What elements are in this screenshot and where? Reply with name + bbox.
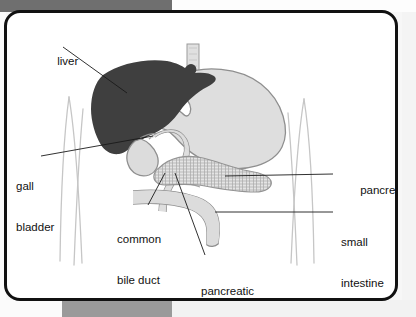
label-liver-line1: liver (57, 55, 78, 67)
label-small-intestine: small intestine (341, 209, 384, 301)
label-liver: liver (38, 41, 78, 82)
label-gall-bladder: gall bladder (16, 153, 54, 261)
page-background-band-bottom-mid (62, 300, 172, 317)
body-contour-right (288, 99, 314, 265)
page-background-band-bottom-right (172, 300, 416, 317)
body-contour-left (60, 97, 83, 265)
label-small-intestine-line2: intestine (341, 277, 384, 291)
label-common-bile-duct-line2: bile duct (117, 274, 161, 288)
label-common-bile-duct-line1: common (117, 233, 161, 247)
anatomy-figure-frame: liver gall bladder common bile duct panc… (4, 10, 398, 301)
label-gall-bladder-line2: bladder (16, 221, 54, 235)
label-pancreatic-duct-line1: pancreatic (201, 285, 254, 299)
label-small-intestine-line1: small (341, 236, 384, 250)
label-common-bile-duct: common bile duct (117, 206, 161, 301)
page-background-band-right (402, 12, 416, 300)
label-pancreas-line1: pancreas (360, 184, 398, 196)
label-pancreatic-duct: pancreatic duct (201, 258, 254, 301)
page-background-band-bottom-left (0, 300, 62, 317)
label-gall-bladder-line1: gall (16, 180, 54, 194)
label-pancreas: pancreas (341, 170, 398, 211)
screenshot-root: liver gall bladder common bile duct panc… (0, 0, 416, 317)
